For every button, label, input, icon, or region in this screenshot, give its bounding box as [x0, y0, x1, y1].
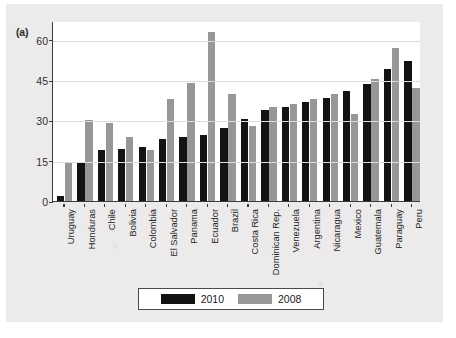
y-tick-mark — [49, 161, 53, 162]
x-tick-mark — [350, 204, 351, 207]
x-tick-label: El Salvador — [170, 209, 179, 257]
bar-2010 — [159, 139, 166, 201]
bar-2008 — [331, 94, 338, 201]
y-tick-mark — [49, 202, 53, 203]
x-tick-label: Dominican Rep. — [272, 209, 281, 275]
bar-group — [77, 22, 92, 201]
bar-group — [241, 22, 256, 201]
bar-group — [363, 22, 378, 201]
y-tick-label: 0 — [18, 197, 48, 208]
bar-2010 — [384, 69, 391, 201]
bar-2008 — [187, 83, 194, 201]
bar-2008 — [126, 137, 133, 201]
bar-group — [139, 22, 154, 201]
y-tick-label: 60 — [18, 36, 48, 47]
bar-2008 — [65, 163, 72, 201]
y-tick-label: 15 — [18, 156, 48, 167]
x-tick-mark — [63, 204, 64, 207]
x-tick-mark — [84, 204, 85, 207]
bar-group — [220, 22, 235, 201]
bar-group — [200, 22, 215, 201]
x-tick-label: Costa Rica — [251, 209, 260, 254]
gridline — [53, 121, 420, 122]
bar-2010 — [200, 135, 207, 201]
bar-2010 — [220, 128, 227, 201]
x-tick-mark — [329, 204, 330, 207]
bar-2010 — [302, 102, 309, 201]
bar-2008 — [371, 79, 378, 201]
bar-2008 — [392, 48, 399, 201]
x-axis: UruguayHondurasChileBoliviaColombiaEl Sa… — [52, 204, 420, 282]
gridline — [53, 41, 420, 42]
bar-2010 — [363, 84, 370, 201]
bar-2010 — [261, 110, 268, 201]
bar-2010 — [179, 137, 186, 201]
x-tick-label: Bolivia — [129, 209, 138, 236]
bar-2008 — [249, 126, 256, 201]
bar-group — [404, 22, 419, 201]
bar-group — [343, 22, 358, 201]
x-tick-label: Chile — [108, 209, 117, 230]
bar-2008 — [167, 99, 174, 201]
x-tick-label: Mexico — [354, 209, 363, 238]
bar-2010 — [343, 91, 350, 201]
x-tick-label: Guatemala — [374, 209, 383, 254]
bars-layer — [53, 22, 420, 201]
figure-root: (a) 015304560 UruguayHondurasChileBolivi… — [0, 0, 456, 338]
gridline — [53, 162, 420, 163]
gridline — [53, 81, 420, 82]
legend-swatch-2010 — [161, 294, 195, 304]
x-tick-label: Uruguay — [67, 209, 76, 244]
y-tick-mark — [49, 40, 53, 41]
bar-2010 — [57, 196, 64, 201]
bar-2008 — [147, 150, 154, 201]
y-tick-label: 30 — [18, 116, 48, 127]
bar-2010 — [77, 163, 84, 201]
y-axis: 015304560 — [10, 22, 48, 202]
bar-group — [57, 22, 72, 201]
x-tick-label: Honduras — [88, 209, 97, 249]
bar-group — [98, 22, 113, 201]
bar-group — [159, 22, 174, 201]
x-tick-mark — [288, 204, 289, 207]
x-tick-mark — [104, 204, 105, 207]
legend-swatch-2008 — [238, 294, 272, 304]
bar-2010 — [241, 119, 248, 201]
bar-group — [261, 22, 276, 201]
x-tick-label: Venezuela — [292, 209, 301, 252]
x-tick-label: Paraguay — [395, 209, 404, 249]
bar-2008 — [412, 88, 419, 201]
bar-2010 — [139, 147, 146, 201]
bar-group — [302, 22, 317, 201]
x-tick-mark — [145, 204, 146, 207]
y-tick-mark — [49, 81, 53, 82]
x-tick-mark — [186, 204, 187, 207]
bar-group — [323, 22, 338, 201]
bar-2010 — [323, 98, 330, 201]
bar-2010 — [98, 150, 105, 201]
x-tick-label: Argentina — [313, 209, 322, 249]
legend-label: 2008 — [278, 294, 301, 305]
plot-area — [52, 22, 420, 202]
x-tick-mark — [268, 204, 269, 207]
bar-group — [179, 22, 194, 201]
x-tick-label: Brazil — [231, 209, 240, 232]
x-tick-mark — [207, 204, 208, 207]
bar-group — [282, 22, 297, 201]
legend-entry: 2008 — [238, 294, 301, 305]
bar-2008 — [208, 32, 215, 201]
x-tick-label: Nicaragua — [333, 209, 342, 251]
x-tick-label: Ecuador — [211, 209, 220, 244]
bar-2008 — [228, 94, 235, 201]
x-tick-label: Panama — [190, 209, 199, 244]
x-tick-label: Peru — [415, 209, 424, 229]
chart-legend: 20102008 — [138, 288, 324, 310]
x-tick-mark — [247, 204, 248, 207]
x-tick-mark — [227, 204, 228, 207]
y-tick-mark — [49, 121, 53, 122]
bar-2008 — [290, 104, 297, 201]
y-tick-label: 45 — [18, 76, 48, 87]
x-tick-mark — [309, 204, 310, 207]
x-tick-mark — [411, 204, 412, 207]
bar-2008 — [351, 114, 358, 201]
